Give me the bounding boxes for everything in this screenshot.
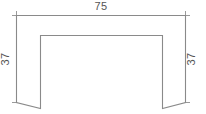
dimension-label-top-width: 75 bbox=[95, 0, 108, 12]
dimension-label-right-height: 37 bbox=[185, 53, 197, 66]
dimension-label-left-height: 37 bbox=[0, 53, 11, 66]
technical-drawing-canvas: 75 37 37 bbox=[0, 0, 206, 114]
u-profile-outline bbox=[17, 16, 186, 109]
drawing-svg: 75 37 37 bbox=[0, 0, 206, 114]
